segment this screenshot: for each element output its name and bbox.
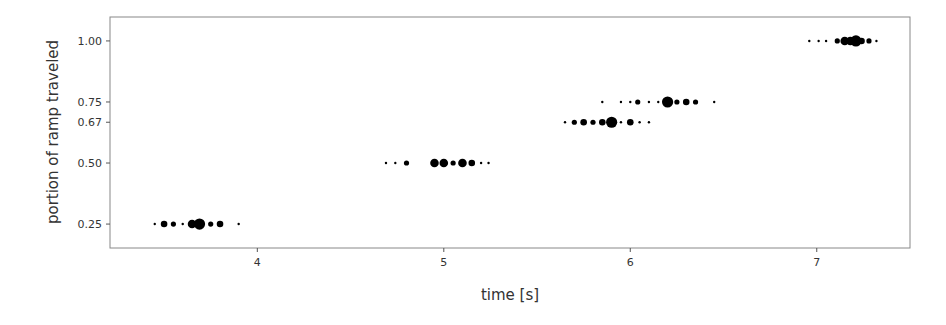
data-point: [458, 159, 467, 168]
y-tick-label: 0.25: [78, 218, 103, 231]
data-point: [620, 101, 622, 103]
data-point: [875, 40, 877, 42]
y-tick-label: 0.50: [78, 157, 103, 170]
x-tick-label: 7: [813, 256, 820, 269]
x-tick-label: 6: [627, 256, 634, 269]
data-point: [606, 117, 617, 128]
data-point: [237, 223, 239, 225]
data-point: [835, 38, 840, 43]
data-point: [217, 221, 224, 228]
data-point: [635, 99, 640, 104]
x-axis-ticks: 4567: [254, 248, 820, 269]
data-point: [182, 223, 184, 225]
x-axis-label: time [s]: [481, 286, 539, 304]
data-point: [825, 40, 827, 42]
x-tick-label: 5: [440, 256, 447, 269]
data-point: [657, 101, 659, 103]
data-point: [394, 162, 396, 164]
data-point: [208, 221, 213, 226]
data-point: [451, 160, 456, 165]
data-point: [194, 218, 205, 229]
data-point: [662, 96, 673, 107]
data-point: [648, 101, 650, 103]
scatter-chart: 4567 0.250.500.670.751.00 time [s] porti…: [0, 0, 946, 325]
data-point: [629, 101, 631, 103]
data-point: [620, 121, 622, 123]
y-tick-label: 0.75: [78, 96, 103, 109]
data-point: [648, 121, 650, 123]
data-point: [385, 162, 387, 164]
x-tick-label: 4: [254, 256, 261, 269]
data-point: [674, 99, 679, 104]
data-point: [161, 221, 168, 228]
data-point: [817, 40, 819, 42]
data-point: [404, 160, 409, 165]
data-point: [858, 38, 865, 45]
data-point: [713, 101, 715, 103]
data-point: [480, 162, 482, 164]
data-point: [590, 120, 595, 125]
data-point: [601, 101, 603, 103]
data-point: [599, 119, 606, 126]
data-point: [866, 38, 871, 43]
data-point: [171, 221, 176, 226]
data-point: [808, 40, 810, 42]
data-point: [154, 223, 156, 225]
y-tick-label: 1.00: [78, 35, 103, 48]
plot-frame: [110, 17, 910, 248]
data-point: [572, 120, 577, 125]
data-point: [580, 119, 587, 126]
y-tick-label: 0.67: [78, 116, 103, 129]
data-point: [487, 162, 489, 164]
data-point: [439, 159, 448, 168]
data-point: [468, 160, 475, 167]
data-point: [638, 121, 640, 123]
data-point: [683, 99, 690, 106]
data-point: [564, 121, 566, 123]
y-axis-label: portion of ramp traveled: [44, 40, 62, 224]
data-point: [693, 99, 698, 104]
y-axis-ticks: 0.250.500.670.751.00: [78, 35, 111, 231]
data-point: [627, 119, 634, 126]
data-point: [430, 159, 439, 168]
